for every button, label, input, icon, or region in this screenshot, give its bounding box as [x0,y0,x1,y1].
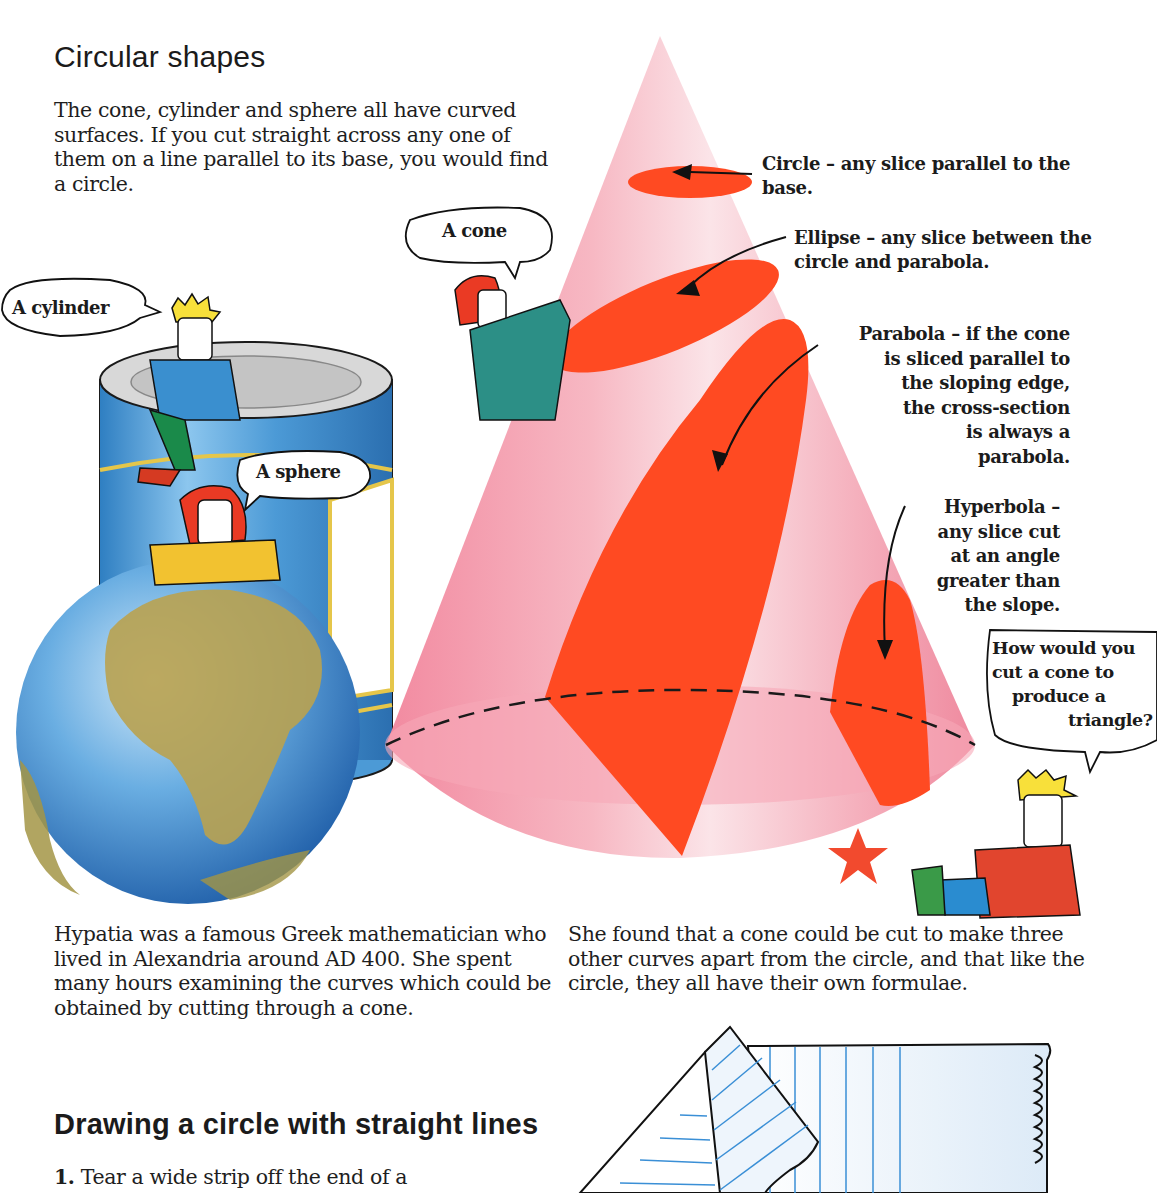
speech-cone-text: A cone [442,220,507,241]
hypatia-paragraph: Hypatia was a famous Greek mathematician… [54,922,554,1020]
speech-cylinder-text: A cylinder [12,297,109,318]
textbook-page: Circular shapes The cone, cylinder and s… [0,0,1157,1193]
character-cone-girl [455,276,570,420]
section-title-circular-shapes: Circular shapes [54,40,265,74]
label-ellipse: Ellipse – any slice between the circle a… [794,226,1124,274]
torn-paper-illustration [580,1027,1050,1193]
speech-question-text: How would you cut a cone to produce a tr… [990,636,1157,732]
section-title-drawing-circle: Drawing a circle with straight lines [54,1108,538,1141]
intro-paragraph: The cone, cylinder and sphere all have c… [54,98,554,196]
label-hyperbola: Hyperbola – any slice cut at an angle gr… [880,495,1060,618]
step-number: 1. [54,1165,75,1189]
sphere-globe-illustration [16,560,360,904]
step-1: 1. Tear a wide strip off the end of a [54,1165,407,1189]
curves-paragraph: She found that a cone could be cut to ma… [568,922,1088,996]
character-question-boy [912,770,1080,918]
star-icon [828,828,888,884]
bubble-cone [406,208,552,279]
label-circle: Circle – any slice parallel to the base. [762,152,1092,200]
speech-sphere-text: A sphere [256,461,340,482]
step-text: Tear a wide strip off the end of a [75,1165,407,1189]
label-parabola: Parabola – if the cone is sliced paralle… [820,322,1070,469]
